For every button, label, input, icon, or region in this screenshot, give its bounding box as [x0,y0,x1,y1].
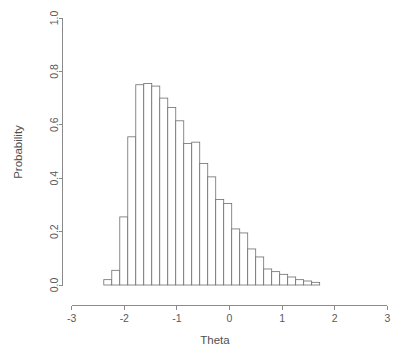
histogram-bar [120,217,128,285]
x-axis-title: Theta [200,334,230,346]
x-axis-tick-label: 3 [384,312,390,324]
histogram-bar [152,86,160,285]
histogram-bar [184,143,192,285]
histogram-bar [176,121,184,285]
histogram-bar [312,282,320,285]
y-axis-tick-label: 0.0 [48,278,60,293]
histogram-bar [216,200,224,285]
histogram-bar [208,177,216,285]
histogram-bar [112,270,120,285]
histogram-bar [224,204,232,285]
x-axis-tick-label: 2 [332,312,338,324]
histogram-bar [304,281,312,285]
histogram-bar [144,83,152,285]
y-axis-tick-label: 0.2 [48,224,60,239]
histogram-bar [240,233,248,285]
histogram-bar [136,85,144,285]
histogram-chart: 0.00.20.40.60.81.0-3-2-10123ThetaProbabi… [0,0,403,354]
histogram-bar [128,137,136,285]
histogram-bar [280,274,288,285]
histogram-bar [232,229,240,285]
histogram-bar [104,280,112,285]
x-axis-tick-label: -3 [67,312,76,324]
plot-area: 0.00.20.40.60.81.0-3-2-10123ThetaProbabi… [0,0,403,354]
y-axis-tick-label: 1.0 [48,11,60,26]
histogram-bar [256,257,264,285]
histogram-bar [264,269,272,285]
histogram-bar [248,249,256,285]
histogram-bar [200,164,208,285]
x-axis-tick-label: 1 [279,312,285,324]
y-axis-title: Probability [12,125,24,179]
histogram-bar [272,272,280,285]
histogram-bar [168,107,176,285]
y-axis-tick-label: 0.6 [48,117,60,132]
histogram-bar [288,277,296,285]
x-axis-tick-label: -2 [120,312,129,324]
x-axis-tick-label: 0 [227,312,233,324]
x-axis-tick-label: -1 [172,312,181,324]
histogram-bar [192,142,200,285]
histogram-bar [296,280,304,285]
histogram-bar [160,98,168,285]
y-axis-tick-label: 0.8 [48,64,60,79]
y-axis-tick-label: 0.4 [48,171,60,186]
